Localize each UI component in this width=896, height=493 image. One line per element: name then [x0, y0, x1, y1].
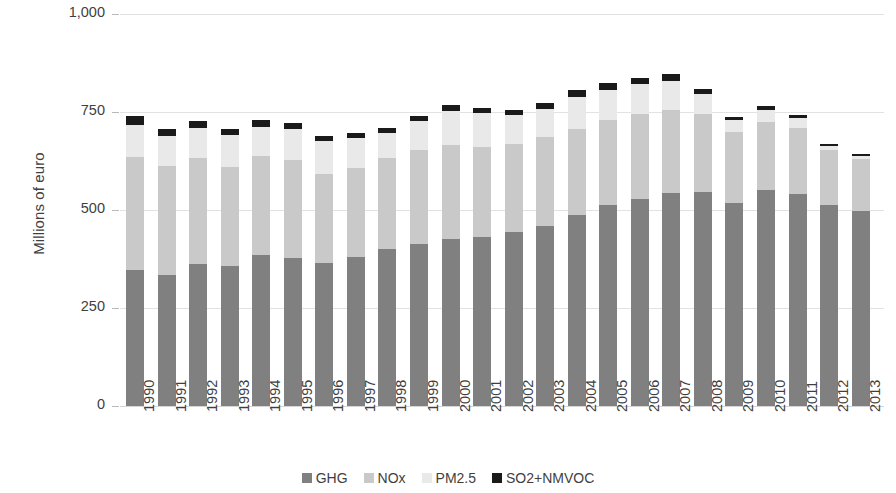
x-axis-tick-label: 1996: [330, 352, 346, 412]
bar-segment-pm2-5: [315, 141, 333, 174]
bar-segment-nox: [284, 160, 302, 258]
y-axis-tick-mark: [112, 406, 119, 407]
x-axis-tick-label: 1991: [173, 352, 189, 412]
bar-segment-pm2-5: [568, 97, 586, 129]
bar-segment-nox: [568, 129, 586, 215]
bar-segment-so2-nmvoc: [631, 78, 649, 85]
bar-segment-pm2-5: [789, 118, 807, 129]
legend-label: NOx: [378, 470, 406, 486]
legend-label: SO2+NMVOC: [506, 470, 594, 486]
y-axis-tick-label: 250: [0, 298, 105, 314]
y-axis-tick-mark: [112, 14, 119, 15]
y-axis-tick-label: 0: [0, 396, 105, 412]
x-axis-tick-label: 1993: [236, 352, 252, 412]
x-axis-tick-label: 2003: [551, 352, 567, 412]
legend-item-so2[interactable]: SO2+NMVOC: [492, 470, 594, 486]
bar-segment-pm2-5: [347, 138, 365, 168]
bar-segment-nox: [852, 159, 870, 211]
y-axis-tick-label: 500: [0, 200, 105, 216]
y-axis-tick-label: 1,000: [0, 4, 105, 20]
x-axis-tick-label: 2004: [583, 352, 599, 412]
x-axis-tick-label: 1995: [299, 352, 315, 412]
legend-swatch-so2: [492, 473, 502, 483]
bar-group: [120, 14, 884, 406]
bar-segment-pm2-5: [410, 121, 428, 150]
bar-segment-pm2-5: [505, 115, 523, 144]
bar-segment-pm2-5: [631, 84, 649, 114]
y-axis-tick-mark: [112, 210, 119, 211]
x-axis-tick-label: 2008: [709, 352, 725, 412]
bar-segment-nox: [410, 150, 428, 244]
x-axis-tick-label: 2006: [646, 352, 662, 412]
x-axis-tick-label: 2000: [457, 352, 473, 412]
bar-segment-pm2-5: [442, 111, 460, 144]
legend-item-ghg[interactable]: GHG: [302, 470, 348, 486]
bar-segment-pm2-5: [662, 81, 680, 110]
bar-segment-pm2-5: [189, 128, 207, 158]
bar-segment-pm2-5: [694, 94, 712, 114]
x-axis-tick-label: 2001: [488, 352, 504, 412]
x-axis-tick-label: 2010: [772, 352, 788, 412]
bar-segment-nox: [347, 168, 365, 257]
x-axis-tick-label: 2005: [614, 352, 630, 412]
x-axis-tick-label: 2011: [804, 352, 820, 412]
legend-label: PM2.5: [436, 470, 476, 486]
bar-segment-so2-nmvoc: [662, 74, 680, 81]
bar-segment-nox: [442, 145, 460, 240]
x-axis-tick-label: 2007: [677, 352, 693, 412]
bar-segment-so2-nmvoc: [158, 129, 176, 136]
legend-item-nox[interactable]: NOx: [364, 470, 406, 486]
bar-segment-nox: [189, 158, 207, 264]
legend-swatch-pm: [422, 473, 432, 483]
x-axis-tick-label: 1994: [267, 352, 283, 412]
bar-segment-nox: [315, 174, 333, 263]
bar-segment-pm2-5: [536, 109, 554, 137]
bar-segment-nox: [378, 158, 396, 249]
bar-segment-so2-nmvoc: [126, 116, 144, 125]
bar-segment-nox: [126, 157, 144, 270]
x-axis-tick-label: 2012: [835, 352, 851, 412]
bar-segment-nox: [158, 166, 176, 276]
bar-segment-nox: [662, 110, 680, 193]
bar-segment-pm2-5: [252, 127, 270, 157]
legend-swatch-ghg: [302, 473, 312, 483]
x-axis-tick-label: 1999: [425, 352, 441, 412]
bar-segment-nox: [694, 114, 712, 192]
x-axis-tick-label: 1998: [393, 352, 409, 412]
y-axis-tick-mark: [112, 308, 119, 309]
bar-segment-so2-nmvoc: [252, 120, 270, 127]
bar-segment-pm2-5: [725, 120, 743, 132]
bar-segment-pm2-5: [158, 136, 176, 166]
x-axis-tick-label: 2009: [740, 352, 756, 412]
bar-segment-nox: [252, 156, 270, 255]
legend-label: GHG: [316, 470, 348, 486]
bar-segment-nox: [757, 122, 775, 191]
plot-area: [120, 14, 884, 406]
bar-segment-nox: [505, 144, 523, 232]
bar-segment-nox: [599, 120, 617, 205]
bar-segment-pm2-5: [757, 110, 775, 122]
chart-legend: GHGNOxPM2.5SO2+NMVOC: [0, 470, 896, 486]
x-axis-tick-label: 2002: [520, 352, 536, 412]
bar-segment-pm2-5: [473, 113, 491, 147]
bar-segment-nox: [631, 114, 649, 199]
bar-segment-nox: [473, 147, 491, 237]
legend-swatch-nox: [364, 473, 374, 483]
bar-segment-pm2-5: [378, 133, 396, 158]
bar-segment-so2-nmvoc: [599, 83, 617, 90]
bar-segment-nox: [221, 167, 239, 266]
bar-segment-pm2-5: [284, 129, 302, 160]
bar-segment-nox: [789, 128, 807, 194]
chart-container: Millions of euro GHGNOxPM2.5SO2+NMVOC 02…: [0, 0, 896, 493]
bar-segment-pm2-5: [221, 135, 239, 167]
bar-segment-so2-nmvoc: [189, 121, 207, 128]
x-axis-tick-label: 1990: [141, 352, 157, 412]
y-axis-tick-label: 750: [0, 102, 105, 118]
x-axis-tick-label: 2013: [867, 352, 883, 412]
bar-segment-nox: [536, 137, 554, 226]
legend-item-pm[interactable]: PM2.5: [422, 470, 476, 486]
y-axis-tick-mark: [112, 112, 119, 113]
bar-segment-nox: [820, 150, 838, 205]
x-axis-tick-label: 1997: [362, 352, 378, 412]
bar-segment-pm2-5: [599, 90, 617, 120]
